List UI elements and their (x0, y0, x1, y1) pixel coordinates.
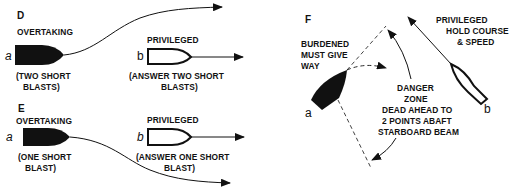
panel-d-vessel-a-signal-line2: BLASTS) (23, 81, 60, 92)
panel-e-vessel-a-letter: a (6, 131, 13, 143)
panel-e-vessel-b-letter: b (137, 131, 144, 143)
panel-e-vessel-b-signal-line1: (ANSWER ONE SHORT (136, 151, 229, 162)
panel-f-vessel-b-letter: b (484, 103, 491, 115)
panel-d-vessel-b-letter: b (137, 50, 144, 62)
panel-d-vessel-b-signal-line2: BLASTS) (161, 81, 198, 92)
panel-e-vessel-a-signal-line2: BLAST) (25, 162, 56, 173)
panel-f-vessel-b-hull (451, 64, 487, 104)
panel-d-vessel-a-hull (15, 45, 64, 65)
panel-f-danger-arc-upper (388, 30, 411, 79)
panel-f-danger-line4: 2 POINTS ABAFT (382, 115, 452, 126)
panel-f-burdened-line3: WAY (301, 60, 320, 71)
panel-f-danger-line5: STARBOARD BEAM (378, 126, 459, 137)
panel-f-burdened-line2: MUST GIVE (301, 49, 348, 60)
panel-f-danger-line3: DEAD AHEAD TO (382, 104, 452, 115)
panel-f-vessel-a-hull (311, 70, 347, 110)
panel-f-dead-ahead-line (347, 26, 386, 70)
panel-d-vessel-a-course (64, 7, 222, 55)
panel-e-vessel-a-hull (23, 128, 70, 146)
panel-d-overtaking-label: OVERTAKING (17, 26, 73, 37)
panel-d-privileged-label: PRIVILEGED (147, 34, 199, 45)
panel-d-letter: D (17, 10, 24, 21)
panel-e-vessel-a-signal-line1: (ONE SHORT (18, 151, 71, 162)
panel-f-danger-line1: DANGER (397, 82, 434, 93)
panel-d-vessel-b-signal-line1: (ANSWER TWO SHORT (129, 70, 224, 81)
panel-f-danger-arc-lower (372, 138, 396, 160)
panel-e-letter: E (18, 103, 25, 114)
panel-d-vessel-a-signal-line1: (TWO SHORT (16, 70, 71, 81)
panel-e-vessel-b-signal-line2: BLAST) (164, 162, 195, 173)
panel-e-overtaking-label: OVERTAKING (16, 115, 72, 126)
panel-f-privileged-line2: HOLD COURSE (446, 25, 509, 36)
panel-d-vessel-b-hull (148, 49, 191, 64)
panel-f-privileged-line1: PRIVILEGED (436, 14, 488, 25)
panel-f-give-way-course (347, 65, 386, 70)
panel-f-vessel-a-letter: a (305, 107, 312, 119)
panel-f-danger-line2: ZONE (404, 93, 428, 104)
panel-e-vessel-b-hull (148, 129, 191, 145)
panel-e-privileged-label: PRIVILEGED (147, 114, 199, 125)
panel-f-abaft-beam-line (338, 100, 371, 168)
panel-f-burdened-line1: BURDENED (301, 38, 349, 49)
panel-d-vessel-a-letter: a (5, 50, 12, 62)
panel-f-letter: F (305, 14, 311, 25)
panel-f-privileged-line3: & SPEED (457, 36, 494, 47)
